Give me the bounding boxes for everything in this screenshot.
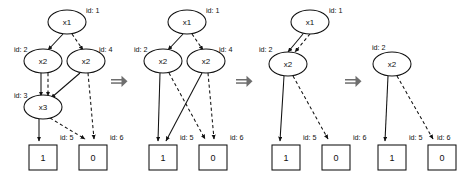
node-label-3: x3 xyxy=(39,103,48,112)
node-id-label-2: id: 2 xyxy=(372,43,386,52)
node-label-2: x2 xyxy=(159,57,168,66)
edges-group xyxy=(280,34,328,141)
node-id-label-5: id: 5 xyxy=(303,133,317,142)
edge-1-to-2-solid xyxy=(288,34,303,52)
node-id-label-1: id: 1 xyxy=(329,6,343,15)
node-label-4: x2 xyxy=(82,57,91,66)
node-id-label-6: id: 6 xyxy=(437,133,451,142)
panel-after-x3-removed: x1id: 1x2id: 2x2id: 41id: 50id: 6 xyxy=(134,6,244,170)
node-label-4: x2 xyxy=(202,57,211,66)
node-id-label-3: id: 3 xyxy=(14,91,28,100)
node-id-label-5: id: 5 xyxy=(60,133,74,142)
node-id-label-2: id: 2 xyxy=(259,45,273,54)
node-id-label-5: id: 5 xyxy=(180,133,194,142)
node-id-label-6: id: 6 xyxy=(230,133,244,142)
node-id-label-1: id: 1 xyxy=(86,6,100,15)
node-id-label-1: id: 1 xyxy=(206,6,220,15)
terminal-label-0: 0 xyxy=(333,153,338,163)
bdd-reduction-diagram: x1id: 1x2id: 2x2id: 4x3id: 31id: 50id: 6… xyxy=(0,0,468,175)
nodes-group: x1id: 1x2id: 21id: 50id: 6 xyxy=(259,6,367,170)
node-id-label-4: id: 4 xyxy=(219,45,233,54)
edge-2-to-6-dashed xyxy=(293,76,328,139)
node-id-label-5: id: 5 xyxy=(409,133,423,142)
node-label-2: x2 xyxy=(39,57,48,66)
arrow-bar-top xyxy=(236,79,248,81)
edge-1-to-4-dashed xyxy=(192,34,203,50)
transform-arrow-2 xyxy=(236,76,253,87)
arrow-bar-top xyxy=(111,79,123,81)
edge-1-to-2-solid xyxy=(168,34,183,50)
edge-2-to-5-solid xyxy=(280,76,284,141)
terminal-label-1: 1 xyxy=(283,153,288,163)
arrow-head xyxy=(122,76,128,87)
arrow-bar-bottom xyxy=(236,82,248,84)
node-id-label-2: id: 2 xyxy=(134,45,148,54)
terminal-label-1: 1 xyxy=(160,153,165,163)
transform-arrow-1 xyxy=(111,76,128,87)
node-id-label-4: id: 4 xyxy=(99,45,113,54)
node-label-1: x1 xyxy=(306,18,315,27)
edge-2-to-6-dashed xyxy=(397,76,433,139)
panels-layer: x1id: 1x2id: 2x2id: 4x3id: 31id: 50id: 6… xyxy=(14,6,456,170)
nodes-group: x1id: 1x2id: 2x2id: 4x3id: 31id: 50id: 6 xyxy=(14,6,124,170)
edge-2-to-5-solid xyxy=(158,73,160,141)
node-label-1: x1 xyxy=(63,18,72,27)
nodes-group: x1id: 1x2id: 2x2id: 41id: 50id: 6 xyxy=(134,6,244,170)
edges-group xyxy=(385,76,433,141)
edge-4-to-3-solid xyxy=(51,73,80,98)
arrow-head xyxy=(356,76,362,87)
arrow-bar-top xyxy=(345,79,357,81)
node-id-label-2: id: 2 xyxy=(14,45,28,54)
panel-initial: x1id: 1x2id: 2x2id: 4x3id: 31id: 50id: 6 xyxy=(14,6,124,170)
terminal-label-0: 0 xyxy=(439,153,444,163)
terminal-label-1: 1 xyxy=(40,153,45,163)
node-label-1: x1 xyxy=(183,18,192,27)
node-label-2: x2 xyxy=(284,60,293,69)
node-id-label-6: id: 6 xyxy=(110,133,124,142)
panel-after-x1-removed: x2id: 21id: 50id: 6 xyxy=(372,43,456,170)
node-id-label-6: id: 6 xyxy=(353,133,367,142)
terminal-label-0: 0 xyxy=(210,153,215,163)
edge-4-to-5-solid xyxy=(166,73,202,141)
transform-arrow-3 xyxy=(345,76,362,87)
edge-2-to-6-dashed xyxy=(169,73,205,139)
panel-after-x2-merged: x1id: 1x2id: 21id: 50id: 6 xyxy=(259,6,367,170)
edge-4-to-6-dashed xyxy=(88,73,94,139)
node-label-2: x2 xyxy=(388,60,397,69)
edge-4-to-6-dashed xyxy=(208,73,214,139)
edge-1-to-2-dashed xyxy=(295,34,310,52)
terminal-label-1: 1 xyxy=(389,153,394,163)
arrow-bar-bottom xyxy=(111,82,123,84)
edge-2-to-5-solid xyxy=(385,76,388,141)
arrow-head xyxy=(247,76,253,87)
terminal-label-0: 0 xyxy=(90,153,95,163)
arrow-bar-bottom xyxy=(345,82,357,84)
transform-arrows-layer xyxy=(111,76,362,87)
diagram-canvas: x1id: 1x2id: 2x2id: 4x3id: 31id: 50id: 6… xyxy=(0,0,468,175)
edge-1-to-2-solid xyxy=(48,34,63,50)
edge-1-to-4-dashed xyxy=(72,34,83,50)
